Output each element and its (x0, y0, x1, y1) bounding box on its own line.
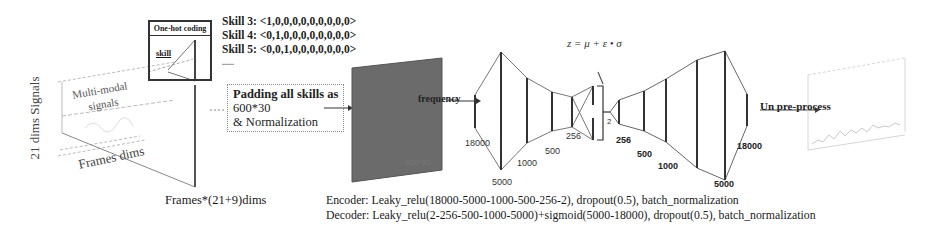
onehot-skill-label: skill (156, 48, 171, 58)
unpreprocess-label: Un pre-process (760, 100, 831, 112)
frequency-label: frequency (418, 93, 461, 104)
encoder-caption: Encoder: Leaky_relu(18000-5000-1000-500-… (326, 193, 739, 208)
decoder-layers (619, 51, 747, 180)
encoder-layer-label: 256 (566, 131, 581, 141)
skill-vector: Skill 5: <0,0,1,0,0,0,0,0,0,0> (222, 42, 356, 56)
encoder-layer-label: 18000 (465, 138, 490, 148)
vertical-signals-label: 21 dims Signals (27, 73, 43, 163)
padding-line-3: & Normalization (233, 115, 338, 129)
decoder-layer-label: 500 (637, 149, 652, 159)
onehot-title: One-hot coding (150, 22, 210, 36)
decoder-layer-label: 1000 (658, 161, 678, 171)
encoder-layer-label: 5000 (492, 177, 512, 187)
decoder-caption: Decoder: Leaky_relu(2-256-500-1000-5000)… (326, 208, 816, 223)
padding-line-1: Padding all skills as (233, 87, 338, 101)
encoder-layer-label: 1000 (517, 158, 537, 168)
padding-line-2: 600*30 (233, 101, 338, 115)
latent-size-label: 2 (607, 117, 611, 126)
frames-total-label: Frames*(21+9)dims (165, 193, 266, 208)
decoder-network (610, 51, 747, 180)
encoder-network (475, 52, 593, 170)
skill-vector: Skill 3: <1,0,0,0,0,0,0,0,0,0> (222, 14, 356, 28)
decoder-layer-label: 256 (616, 135, 631, 145)
padding-box: Padding all skills as 600*30 & Normaliza… (227, 84, 344, 132)
encoder-layer-label: 500 (545, 146, 560, 156)
reparam-formula: z = μ + ε • σ (567, 37, 622, 49)
decoder-layer-label: 18000 (737, 141, 762, 151)
matrix-size-label: 600*30 (405, 158, 430, 167)
onehot-box: One-hot coding skill (148, 20, 212, 81)
decoder-layer-label: 5000 (714, 179, 734, 189)
encoder-layers (475, 52, 593, 170)
latent-bracket (597, 72, 610, 140)
skill-vector: Skill 4: <0,1,0,0,0,0,0,0,0,0> (222, 28, 356, 42)
skill-vector-list: Skill 3: <1,0,0,0,0,0,0,0,0,0> Skill 4: … (222, 14, 356, 70)
skill-vector-ellipsis: ...... (222, 56, 356, 70)
